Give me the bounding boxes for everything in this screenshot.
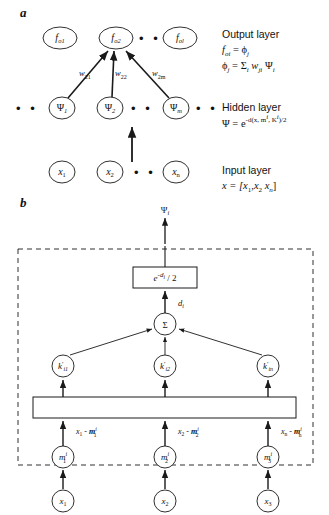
distance-label: di xyxy=(178,298,184,309)
figure-canvas: a b xyxy=(0,0,329,515)
k-to-sum-edge-1 xyxy=(70,329,152,355)
input-row-ellipsis: • • xyxy=(134,166,156,179)
sum-node-label: Σ xyxy=(162,320,167,330)
weight-label-3: w2m xyxy=(152,68,166,80)
output-layer-equation-1: foi = ϕj xyxy=(222,44,249,55)
difference-label-3: xn - min xyxy=(280,426,302,438)
output-row-ellipsis: • • xyxy=(139,32,161,45)
hidden-row-ellipsis-mid: • • xyxy=(131,102,153,115)
input-layer-equation: x = [x1,x2 xn] xyxy=(222,180,276,191)
hidden-layer-equation: Ψ = e-d(x, mi, Ki)/2 xyxy=(222,117,286,129)
difference-label-2: x2 - mi2 xyxy=(177,426,199,438)
weight-label-2: w22 xyxy=(115,68,127,80)
output-layer-title: Output layer xyxy=(222,28,279,40)
difference-label-1: x1 - mi1 xyxy=(75,426,97,438)
transform-bar xyxy=(33,397,296,418)
weight-label-1: w21 xyxy=(79,68,91,80)
hidden-row-ellipsis-right: • • xyxy=(196,102,218,115)
k-to-sum-edge-3 xyxy=(179,329,262,355)
output-layer-equation-2: ϕj = Σi wji Ψi xyxy=(222,60,275,71)
weight-edge-2 xyxy=(112,51,114,97)
hidden-layer-title: Hidden layer xyxy=(222,101,281,113)
gaussian-box-label: e-di / 2 xyxy=(154,271,177,283)
psi-output-label: Ψi xyxy=(161,205,170,216)
diagram-vector-layer: fo1 fo2 fol Ψ1 Ψ2 Ψm x1 x2 xyxy=(0,0,329,515)
input-layer-title: Input layer xyxy=(222,164,271,176)
hidden-row-ellipsis-left: • • xyxy=(16,102,38,115)
